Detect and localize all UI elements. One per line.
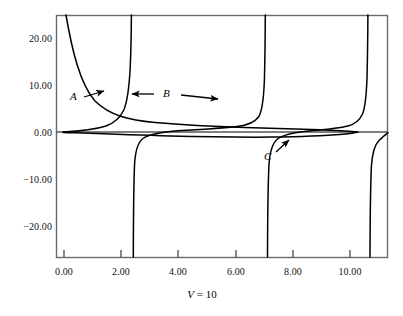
curve-label-a: A (70, 90, 77, 102)
x-axis-caption: V = 10 (187, 288, 216, 300)
x-axis-ticks (64, 250, 350, 257)
y-tick-label-neg10: −10.00 (2, 174, 52, 185)
curve-upper-arc (66, 15, 357, 132)
y-tick-label-neg20: −20.00 (2, 221, 52, 232)
chart-figure: 20.00 10.00 0.00 −10.00 −20.00 0.00 2.00… (0, 0, 403, 316)
y-tick-label-0: 0.00 (6, 127, 52, 138)
x-tick-label-2: 2.00 (112, 266, 130, 277)
annotation-arrow-a (84, 91, 104, 97)
annotation-arrow-c (276, 140, 289, 152)
caption-equals: = (197, 288, 203, 300)
x-tick-label-6: 6.00 (227, 266, 245, 277)
y-tick-label-20: 20.00 (6, 33, 52, 44)
x-tick-label-10: 10.00 (339, 266, 362, 277)
caption-variable: V (187, 288, 194, 300)
curve-tan-branch-4 (370, 133, 388, 257)
annotation-arrow-b (132, 94, 218, 99)
y-tick-label-10: 10.00 (6, 80, 52, 91)
curve-label-c: C (264, 150, 271, 162)
curve-lower-arc (63, 132, 358, 137)
curve-tan-branch-1 (63, 15, 131, 132)
x-tick-label-4: 4.00 (169, 266, 187, 277)
x-tick-label-8: 8.00 (284, 266, 302, 277)
x-tick-label-0: 0.00 (55, 266, 73, 277)
curve-label-b: B (163, 87, 170, 99)
caption-value: 10 (206, 288, 217, 300)
